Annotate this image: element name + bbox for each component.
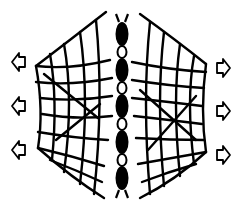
arrow-left-icon [12,141,25,159]
right-net [132,14,206,198]
arrow-right-icon [217,59,230,77]
chain-link-hollow [118,82,127,94]
chain-link-solid [116,166,129,190]
chain-link-hollow [118,154,127,166]
chain-net-diagram [0,0,241,212]
arrow-right-icon [217,102,230,120]
chain [116,14,129,198]
arrow-left-icon [12,53,25,71]
chain-link-hollow [118,118,127,130]
left-arrows [12,53,25,159]
chain-link-solid [116,58,129,82]
left-net [36,12,112,198]
chain-link-solid [116,130,129,154]
right-arrows [217,59,230,164]
arrow-left-icon [12,97,25,115]
chain-link-solid [116,22,129,46]
arrow-right-icon [217,146,230,164]
chain-link-solid [116,94,129,118]
chain-link-hollow [118,46,127,58]
